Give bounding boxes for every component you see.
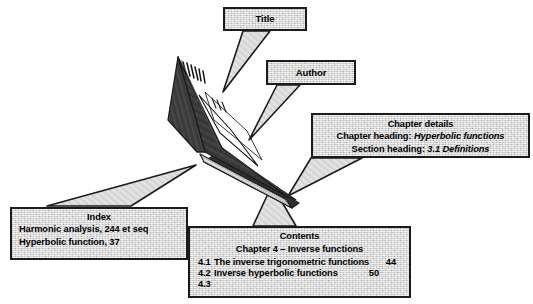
index-entry: Harmonic analysis, 244 et seq xyxy=(19,224,179,235)
contents-chapter-line: Chapter 4 – Inverse functions xyxy=(198,244,401,255)
callout-contents: Contents Chapter 4 – Inverse functions 4… xyxy=(188,226,411,298)
section-heading-label: Section heading: xyxy=(352,144,428,154)
callout-author: Author xyxy=(266,60,356,85)
contents-row-number: 4.2 xyxy=(198,268,214,279)
contents-row-page xyxy=(395,279,401,290)
contents-row-page: 44 xyxy=(380,257,401,268)
callout-index: Index Harmonic analysis, 244 et seq Hype… xyxy=(10,207,188,260)
callout-chapter-details: Chapter details Chapter heading: Hyperbo… xyxy=(311,113,530,158)
diagram-canvas: Title Author Chapter details Chapter hea… xyxy=(0,0,533,304)
pointer-chapter-details xyxy=(288,158,362,196)
pointer-author xyxy=(249,85,300,140)
contents-row-title: Inverse hyperbolic functions xyxy=(214,268,338,279)
callout-title-label: Title xyxy=(256,13,275,24)
contents-row: 4.1 The inverse trigonometric functions … xyxy=(198,257,401,268)
index-entry: Hyperbolic function, 37 xyxy=(19,237,179,248)
chapter-heading-label: Chapter heading: xyxy=(337,131,414,141)
contents-heading: Contents xyxy=(198,231,401,242)
pointer-index xyxy=(47,165,196,206)
pointer-title xyxy=(223,31,270,92)
callout-author-label: Author xyxy=(296,67,327,78)
index-heading: Index xyxy=(19,212,179,223)
chapter-heading-value: Hyperbolic functions xyxy=(414,131,504,141)
chapter-details-heading: Chapter details xyxy=(319,119,522,130)
section-heading-row: Section heading: 3.1 Definitions xyxy=(319,144,522,155)
contents-row: 4.3 xyxy=(198,279,401,290)
contents-row-number: 4.3 xyxy=(198,279,214,290)
contents-row-number: 4.1 xyxy=(198,257,214,268)
section-heading-value: 3.1 Definitions xyxy=(427,144,489,154)
callout-title: Title xyxy=(223,7,307,31)
chapter-heading-row: Chapter heading: Hyperbolic functions xyxy=(319,131,522,142)
contents-row-title: The inverse trigonometric functions xyxy=(214,257,369,268)
contents-row-page: 50 xyxy=(363,268,401,279)
contents-row: 4.2 Inverse hyperbolic functions 50 xyxy=(198,268,401,279)
